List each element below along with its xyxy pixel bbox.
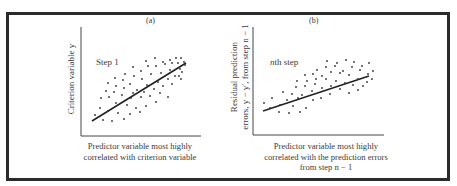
panel-b-axes [253, 27, 384, 135]
scatter-point [353, 61, 355, 63]
scatter-point [339, 72, 341, 74]
panel-b-plot [253, 27, 384, 135]
scatter-point [169, 69, 171, 71]
scatter-point [339, 88, 341, 90]
scatter-point [169, 59, 171, 61]
panel-b-step-text: th step [275, 57, 299, 67]
scatter-point [344, 82, 346, 84]
scatter-point [136, 89, 138, 91]
scatter-point [117, 112, 119, 114]
scatter-point [124, 73, 126, 75]
scatter-point [157, 81, 159, 83]
panel-b-x-axis-label: Predictor variable most highly correlate… [246, 141, 406, 173]
panel-b-y-axis-label: Residual prediction errors, y − y′, from… [229, 15, 250, 139]
scatter-point [297, 97, 299, 99]
scatter-point [348, 92, 350, 94]
scatter-point [175, 57, 177, 59]
scatter-point [306, 80, 308, 82]
scatter-point [367, 73, 369, 75]
scatter-point [143, 91, 145, 93]
panel-b-regression-line [263, 76, 369, 111]
scatter-point [115, 85, 117, 87]
panel-a-tag: (a) [146, 16, 155, 26]
scatter-point [102, 119, 104, 121]
scatter-point [123, 118, 125, 120]
panel-a-axes [81, 27, 201, 136]
scatter-point [357, 78, 359, 80]
scatter-point [122, 79, 124, 81]
scatter-point [153, 88, 155, 90]
scatter-point [159, 92, 161, 94]
scatter-point [133, 75, 135, 77]
scatter-point [278, 111, 280, 113]
scatter-point [139, 111, 141, 113]
scatter-point [155, 65, 157, 67]
panel-a-x-axis-label-line-2: correlated with criterion variable [70, 152, 210, 163]
scatter-point [99, 107, 101, 109]
scatter-point [320, 97, 322, 99]
scatter-point [315, 78, 317, 80]
scatter-point [174, 75, 176, 77]
scatter-point [286, 99, 288, 101]
scatter-point [305, 107, 307, 109]
scatter-point [312, 99, 314, 101]
scatter-point [150, 73, 152, 75]
scatter-point [291, 93, 293, 95]
scatter-point [155, 101, 157, 103]
scatter-point [311, 90, 313, 92]
scatter-point [316, 69, 318, 71]
scatter-point [366, 81, 368, 83]
panel-b-x-axis-label-line-1: Predictor variable most highly [246, 141, 406, 152]
scatter-point [181, 71, 183, 73]
scatter-point [180, 78, 182, 80]
scatter-point [164, 63, 166, 65]
panel-a-y-axis-label: Criterion variable y [66, 29, 77, 129]
scatter-point [296, 80, 298, 82]
scatter-point [108, 96, 110, 98]
panel-b-y-axis-label-line-1: Residual prediction [229, 15, 240, 139]
scatter-point [140, 96, 142, 98]
scatter-point [107, 82, 109, 84]
panel-b-scatter-points [263, 59, 374, 114]
panel-a-plot [81, 27, 201, 136]
scatter-point [330, 71, 332, 73]
scatter-point [312, 73, 314, 75]
panel-b-x-axis-label-line-3: from step n − 1 [246, 162, 406, 173]
scatter-point [330, 85, 332, 87]
scatter-point [321, 75, 323, 77]
scatter-point [292, 105, 294, 107]
scatter-point [325, 66, 327, 68]
panel-a-x-axis-label-line-1: Predictor variable most highly [70, 141, 210, 152]
scatter-point [304, 85, 306, 87]
scatter-point [372, 70, 374, 72]
scatter-point [129, 113, 131, 115]
scatter-point [145, 105, 147, 107]
scatter-point [361, 65, 363, 67]
scatter-point [351, 66, 353, 68]
scatter-point [326, 60, 328, 62]
scatter-point [149, 95, 151, 97]
scatter-point [171, 62, 173, 64]
scatter-point [288, 112, 290, 114]
scatter-point [140, 70, 142, 72]
scatter-point [132, 92, 134, 94]
scatter-point [348, 74, 350, 76]
scatter-point [263, 102, 265, 104]
scatter-point [359, 69, 361, 71]
scatter-point [299, 111, 301, 113]
regression-steps-figure: (a) Step 1 Criterion variable y Predicto… [0, 0, 457, 186]
scatter-point [282, 91, 284, 93]
scatter-point [141, 78, 143, 80]
scatter-point [130, 97, 132, 99]
scatter-point [334, 65, 336, 67]
scatter-point [362, 85, 364, 87]
scatter-point [126, 104, 128, 106]
scatter-point [279, 104, 281, 106]
scatter-point [115, 102, 117, 104]
panel-b-tag: (b) [309, 16, 318, 26]
scatter-point [371, 78, 373, 80]
scatter-point [352, 84, 354, 86]
scatter-point [123, 87, 125, 89]
scatter-point [269, 107, 271, 109]
scatter-point [314, 83, 316, 85]
